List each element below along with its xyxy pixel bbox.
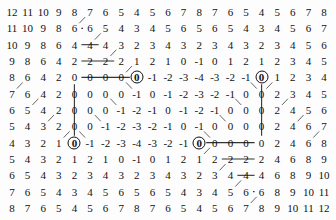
- grid-cell: 2: [150, 56, 156, 67]
- grid-cell: 10: [22, 23, 33, 34]
- grid-cell: 2: [243, 56, 249, 67]
- grid-cell: 3: [259, 23, 265, 34]
- grid-cell: 3: [40, 121, 46, 132]
- grid-cell: 8: [9, 203, 15, 214]
- grid-cell: 4: [150, 23, 156, 34]
- grid-cell: 3: [290, 88, 296, 99]
- grid-cell: 0: [118, 72, 124, 83]
- grid-cell: 10: [38, 7, 49, 18]
- grid-cell: 4: [72, 39, 78, 50]
- grid-cell: 6: [9, 170, 15, 181]
- grid-cell: -4: [132, 137, 141, 148]
- grid-cell: 11: [319, 186, 330, 197]
- grid-cell: 0: [118, 154, 124, 165]
- grid-cell: 9: [9, 56, 15, 67]
- grid-cell: 0: [212, 56, 218, 67]
- grid-cell: 8: [274, 186, 280, 197]
- grid-cell: 0: [181, 121, 187, 132]
- grid-cell: -2: [226, 72, 235, 83]
- grid-cell: 5: [228, 23, 234, 34]
- grid-cell: 3: [150, 39, 156, 50]
- grid-cell: 4: [274, 154, 280, 165]
- grid-cell: 4: [40, 105, 46, 116]
- grid-cell: 0: [72, 121, 78, 132]
- grid-cell: 6: [321, 39, 327, 50]
- grid-cell: -1: [148, 105, 157, 116]
- grid-cell: 3: [181, 39, 187, 50]
- grid-cell: 5: [181, 203, 187, 214]
- grid-cell: 0: [103, 88, 109, 99]
- grid-cell: 4: [25, 154, 31, 165]
- lattice-figure: 1211109876545678765456781110986654345656…: [0, 0, 336, 220]
- grid-cell: 2: [134, 170, 140, 181]
- grid-cell: 5: [25, 170, 31, 181]
- grid-cell: 3: [181, 170, 187, 181]
- grid-cell: 1: [56, 137, 62, 148]
- grid-cell: 8: [306, 154, 312, 165]
- grid-cell: 6: [25, 88, 31, 99]
- grid-cell: 0: [87, 72, 93, 83]
- grid-cell: 8: [321, 7, 327, 18]
- grid-cell: 4: [274, 23, 280, 34]
- grid-cell: 7: [212, 7, 218, 18]
- grid-cell: 10: [303, 186, 314, 197]
- grid-cell: 6: [306, 23, 312, 34]
- grid-cell: 2: [72, 170, 78, 181]
- grid-cell: 4: [25, 121, 31, 132]
- grid-cell: 3: [150, 170, 156, 181]
- grid-cell: 4: [40, 88, 46, 99]
- grid-cell: 6: [72, 23, 78, 34]
- grid-cell: 6: [40, 203, 46, 214]
- grid-cell: 4: [103, 39, 109, 50]
- grid-cell: 4: [40, 170, 46, 181]
- grid-cell: -1: [85, 137, 94, 148]
- grid-cell: 0: [72, 88, 78, 99]
- grid-cell: 2: [118, 56, 124, 67]
- grid-cell: 4: [228, 39, 234, 50]
- grid-cell: 3: [212, 39, 218, 50]
- grid-cell: 2: [228, 154, 234, 165]
- grid-cell: 0: [243, 88, 249, 99]
- grid-cell: 9: [40, 23, 46, 34]
- grid-cell: 5: [56, 203, 62, 214]
- grid-cell: 5: [321, 56, 327, 67]
- grid-cell: 5: [306, 105, 312, 116]
- grid-cell: -2: [101, 137, 110, 148]
- grid-cell: 4: [56, 56, 62, 67]
- grid-cell: 2: [87, 56, 93, 67]
- grid-cell: 7: [243, 203, 249, 214]
- grid-cell: 5: [228, 186, 234, 197]
- grid-cell: -3: [195, 88, 204, 99]
- grid-cell: 6: [259, 186, 265, 197]
- grid-cell: 4: [118, 23, 124, 34]
- grid-cell: 2: [56, 154, 62, 165]
- grid-cell: 6: [103, 203, 109, 214]
- grid-cell: 2: [56, 72, 62, 83]
- grid-cell: 5: [165, 186, 171, 197]
- grid-cell: 10: [7, 39, 18, 50]
- grid-cell: 2: [181, 154, 187, 165]
- grid-cell: 3: [196, 186, 202, 197]
- grid-cell: 0: [87, 105, 93, 116]
- grid-cell: -1: [241, 72, 250, 83]
- grid-cell: 2: [243, 154, 249, 165]
- grid-cell: 6: [118, 186, 124, 197]
- grid-cell: 0: [150, 88, 156, 99]
- grid-cell: 5: [306, 39, 312, 50]
- grid-cell: 8: [72, 7, 78, 18]
- grid-cell: 1: [134, 56, 140, 67]
- grid-cell: -1: [117, 105, 126, 116]
- grid-cell: 5: [212, 203, 218, 214]
- grid-cell: 5: [118, 7, 124, 18]
- grid-cell: 1: [228, 56, 234, 67]
- grid-cell: -2: [210, 88, 219, 99]
- grid-cell: -2: [179, 88, 188, 99]
- grid-cell: 0: [259, 105, 265, 116]
- grid-cell: 0: [150, 154, 156, 165]
- grid-cell: 8: [25, 56, 31, 67]
- grid-cell: 6: [165, 7, 171, 18]
- grid-cell: 0: [228, 121, 234, 132]
- grid-cell: 6: [212, 23, 218, 34]
- grid-cell: 3: [56, 170, 62, 181]
- grid-cell: 5: [87, 203, 93, 214]
